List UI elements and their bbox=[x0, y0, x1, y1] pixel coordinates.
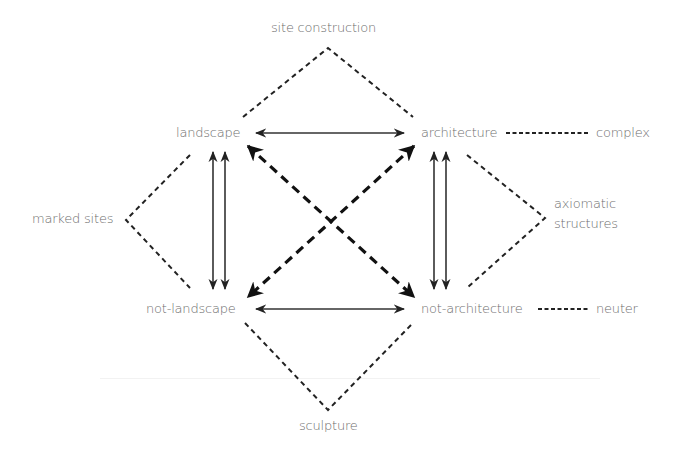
bracket-sculpture bbox=[245, 323, 413, 410]
bracket-site-construction bbox=[243, 48, 413, 117]
label-marked-sites: marked sites bbox=[32, 211, 113, 227]
label-not-architecture: not-architecture bbox=[421, 301, 522, 317]
label-axiomatic: axiomatic bbox=[554, 196, 616, 212]
bracket-marked-sites bbox=[126, 155, 190, 288]
label-complex: complex bbox=[596, 125, 650, 141]
bracket-axiomatic-structures bbox=[467, 155, 545, 288]
label-landscape: landscape bbox=[176, 125, 240, 141]
label-site-construction: site construction bbox=[271, 20, 376, 36]
label-structures: structures bbox=[554, 216, 618, 232]
label-architecture: architecture bbox=[421, 125, 497, 141]
label-sculpture: sculpture bbox=[299, 418, 358, 434]
label-not-landscape: not-landscape bbox=[146, 301, 236, 317]
label-neuter: neuter bbox=[596, 301, 638, 317]
